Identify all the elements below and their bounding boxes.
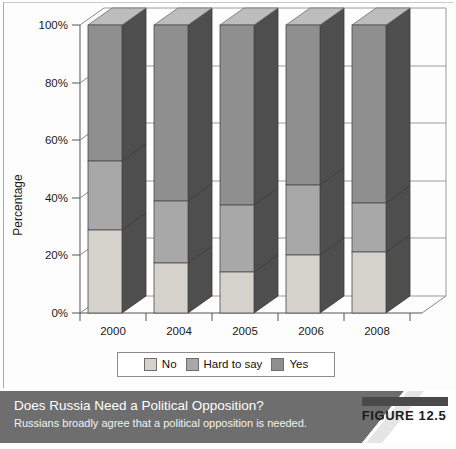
bar-group-2008[interactable] [352, 8, 410, 313]
bar-2000-hard-front [88, 161, 122, 230]
bar-2006-yes-front [286, 25, 320, 185]
x-tick-2006: 2006 [298, 325, 324, 337]
chart-plot-area: Percentage 100% 80% 60% 40% 20% 0% [0, 0, 456, 340]
y-tick-0: 0% [51, 307, 68, 319]
y-axis-tick-labels: 100% 80% 60% 40% 20% 0% [39, 19, 68, 319]
figure-number-block: FIGURE 12.5 [358, 397, 450, 423]
figure-rule-bar [362, 397, 448, 406]
bar-2004-hard-front [154, 201, 188, 263]
bar-group-2000[interactable] [88, 8, 146, 313]
bar-2008-yes-side [386, 8, 410, 203]
y-tick-100: 100% [39, 19, 68, 31]
x-axis-tick-labels: 2000 2004 2005 2006 2008 [100, 325, 390, 337]
legend-swatch-yes-icon [271, 358, 284, 371]
figure-page: Percentage 100% 80% 60% 40% 20% 0% [0, 0, 456, 449]
bar-group-2005[interactable] [220, 8, 278, 313]
bar-2008-hard-front [352, 203, 386, 252]
legend-item-yes[interactable]: Yes [271, 358, 308, 371]
bar-2008-no-front [352, 252, 386, 313]
bar-2004-yes-side [188, 8, 212, 201]
caption-subtitle: Russians broadly agree that a political … [14, 415, 344, 432]
bar-2004-no-front [154, 263, 188, 313]
x-tick-2008: 2008 [364, 325, 390, 337]
legend-label-no: No [162, 359, 177, 371]
x-tick-2004: 2004 [166, 325, 192, 337]
stacked-bar-chart: Percentage 100% 80% 60% 40% 20% 0% [0, 0, 456, 340]
bar-group-2006[interactable] [286, 8, 344, 313]
y-tick-80: 80% [45, 77, 68, 89]
bar-2000-yes-side [122, 8, 146, 161]
chart-legend: No Hard to say Yes [117, 352, 335, 377]
bar-group-2004[interactable] [154, 8, 212, 313]
legend-item-hard-to-say[interactable]: Hard to say [186, 358, 263, 371]
bar-2000-no-side [122, 213, 146, 313]
legend-label-hard-to-say: Hard to say [204, 359, 263, 371]
bar-2005-hard-front [220, 205, 254, 272]
y-axis-title: Percentage [11, 174, 25, 236]
y-tick-40: 40% [45, 192, 68, 204]
bar-2006-hard-front [286, 185, 320, 255]
bar-2008-yes-front [352, 25, 386, 203]
y-tick-60: 60% [45, 134, 68, 146]
x-axis-ticks [80, 313, 410, 321]
figure-caption-bar: Does Russia Need a Political Opposition?… [0, 391, 456, 443]
x-tick-2000: 2000 [100, 325, 126, 337]
bar-2004-yes-front [154, 25, 188, 201]
bar-2005-yes-front [220, 25, 254, 205]
bar-2000-yes-front [88, 25, 122, 161]
legend-label-yes: Yes [289, 359, 308, 371]
legend-swatch-no-icon [144, 358, 157, 371]
bar-2005-no-front [220, 272, 254, 313]
caption-text-block: Does Russia Need a Political Opposition?… [14, 396, 344, 432]
bar-2005-yes-side [254, 8, 278, 205]
caption-title: Does Russia Need a Political Opposition? [14, 396, 344, 415]
legend-swatch-hard-to-say-icon [186, 358, 199, 371]
bar-2006-no-front [286, 255, 320, 313]
bar-2006-yes-side [320, 8, 344, 185]
y-tick-20: 20% [45, 249, 68, 261]
legend-item-no[interactable]: No [144, 358, 177, 371]
x-tick-2005: 2005 [232, 325, 258, 337]
y-axis-ticks [72, 25, 80, 313]
bar-2000-no-front [88, 230, 122, 313]
figure-number-label: FIGURE 12.5 [358, 408, 450, 423]
